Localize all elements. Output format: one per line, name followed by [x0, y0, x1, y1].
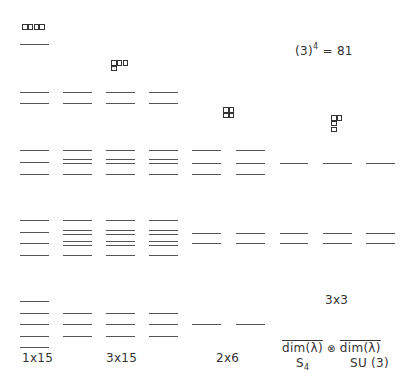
- group-s-letter: S: [296, 356, 304, 370]
- energy-level-diagram: (3)4 = 81 1x15 3x15 2x6 3x3 dim(λ) ⊗ dim…: [0, 0, 413, 391]
- energy-level-line: [63, 103, 92, 104]
- energy-level-line: [323, 163, 352, 164]
- energy-level-line: [20, 220, 49, 221]
- young-box: [331, 127, 337, 133]
- energy-level-line: [20, 103, 49, 104]
- energy-level-line: [366, 233, 395, 234]
- energy-level-line: [63, 150, 92, 151]
- young-box: [34, 24, 40, 30]
- energy-level-line: [20, 92, 49, 93]
- energy-level-line: [149, 163, 178, 164]
- energy-level-line: [149, 174, 178, 175]
- energy-level-line: [63, 241, 92, 242]
- energy-level-line: [20, 150, 49, 151]
- young-box: [223, 113, 229, 119]
- dim-su3-label: dim(λ): [340, 341, 381, 355]
- energy-level-line: [106, 230, 135, 231]
- energy-level-line: [192, 243, 221, 244]
- energy-level-line: [106, 150, 135, 151]
- young-box: [111, 60, 117, 66]
- title-base: (3): [295, 44, 313, 58]
- dimension-product-label: dim(λ) ⊗ dim(λ): [282, 341, 381, 355]
- energy-level-line: [106, 103, 135, 104]
- energy-level-line: [106, 313, 135, 314]
- energy-level-line: [20, 347, 49, 348]
- energy-level-line: [366, 243, 395, 244]
- title-exponent: 4: [313, 42, 318, 51]
- energy-level-line: [149, 92, 178, 93]
- young-box: [39, 24, 45, 30]
- energy-level-line: [106, 234, 135, 235]
- energy-level-line: [280, 243, 308, 244]
- energy-level-line: [106, 159, 135, 160]
- energy-level-line: [149, 103, 178, 104]
- young-box: [28, 24, 34, 30]
- energy-level-line: [149, 336, 178, 337]
- energy-level-line: [20, 162, 49, 163]
- energy-level-line: [366, 163, 395, 164]
- energy-level-line: [236, 233, 265, 234]
- young-box: [223, 107, 229, 113]
- energy-level-line: [192, 174, 221, 175]
- energy-level-line: [192, 150, 221, 151]
- energy-level-line: [20, 174, 49, 175]
- young-box: [117, 60, 123, 66]
- energy-level-line: [63, 159, 92, 160]
- energy-level-line: [149, 324, 178, 325]
- tensor-product-symbol: ⊗: [327, 343, 336, 354]
- multiplicity-label-2x6: 2x6: [216, 351, 239, 365]
- energy-level-line: [192, 233, 221, 234]
- energy-level-line: [20, 243, 49, 244]
- energy-level-line: [149, 234, 178, 235]
- energy-level-line: [106, 163, 135, 164]
- energy-level-line: [20, 301, 49, 302]
- energy-level-line: [149, 230, 178, 231]
- energy-level-line: [106, 324, 135, 325]
- multiplicity-label-3x15: 3x15: [106, 351, 137, 365]
- energy-level-line: [149, 159, 178, 160]
- group-s4-label: S4: [296, 356, 309, 370]
- energy-level-line: [149, 220, 178, 221]
- young-box: [229, 107, 235, 113]
- energy-level-line: [323, 243, 352, 244]
- energy-level-line: [323, 233, 352, 234]
- energy-level-line: [149, 255, 178, 256]
- energy-level-line: [63, 230, 92, 231]
- energy-level-line: [63, 324, 92, 325]
- energy-level-line: [106, 220, 135, 221]
- young-box: [331, 121, 337, 127]
- multiplicity-label-3x3: 3x3: [325, 293, 348, 307]
- energy-level-line: [236, 324, 265, 325]
- multiplicity-label-1x15: 1x15: [22, 351, 53, 365]
- energy-level-line: [280, 233, 308, 234]
- title-result: = 81: [318, 44, 352, 58]
- group-su3-label: SU (3): [350, 356, 389, 370]
- young-box: [229, 113, 235, 119]
- energy-level-line: [106, 241, 135, 242]
- energy-level-line: [63, 234, 92, 235]
- energy-level-line: [280, 163, 308, 164]
- energy-level-line: [149, 150, 178, 151]
- energy-level-line: [149, 241, 178, 242]
- energy-level-line: [63, 245, 92, 246]
- young-box: [22, 24, 28, 30]
- young-box: [111, 66, 117, 72]
- young-box: [123, 60, 129, 66]
- energy-level-line: [20, 336, 49, 337]
- energy-level-line: [106, 174, 135, 175]
- energy-level-line: [63, 255, 92, 256]
- energy-level-line: [149, 245, 178, 246]
- dim-s4-label: dim(λ): [282, 341, 323, 355]
- group-s-subscript: 4: [304, 363, 309, 372]
- energy-level-line: [63, 163, 92, 164]
- energy-level-line: [236, 174, 265, 175]
- energy-level-line: [192, 163, 221, 164]
- young-box: [331, 115, 337, 121]
- energy-level-line: [20, 324, 49, 325]
- title-equation: (3)4 = 81: [295, 44, 353, 58]
- energy-level-line: [63, 92, 92, 93]
- energy-level-line: [236, 150, 265, 151]
- energy-level-line: [106, 336, 135, 337]
- energy-level-line: [20, 232, 49, 233]
- energy-level-line: [20, 44, 49, 45]
